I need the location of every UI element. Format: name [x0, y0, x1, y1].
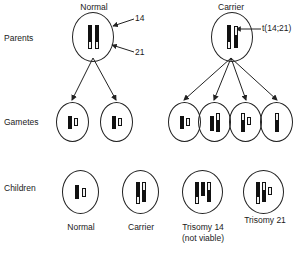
chromosome-translocation-14-21	[207, 182, 211, 202]
chromosome-group	[261, 103, 292, 141]
chromosome-group	[199, 103, 230, 141]
chromosome-14	[95, 25, 99, 41]
parent-cell-normal[interactable]	[72, 12, 114, 62]
chromosome-translocation-14-21	[234, 26, 238, 48]
chromosome-translocation-14-21	[262, 182, 266, 202]
translocation-black-segment	[143, 190, 145, 201]
child-caption-line2: (not viable)	[172, 233, 234, 244]
chromosome-21	[118, 118, 122, 126]
chromosome-14	[112, 116, 116, 129]
chromosome-translocation-14-21	[142, 182, 146, 202]
row-label-gametes: Gametes	[4, 117, 39, 127]
chromosome-group	[123, 171, 158, 213]
callout-label-chr21: 21	[135, 47, 144, 57]
child-caption-trisomy-14: Trisomy 14 (not viable)	[172, 222, 234, 243]
callout-label-chr14: 14	[135, 13, 144, 23]
translocation-black-segment	[235, 35, 237, 47]
chromosome-14	[75, 185, 79, 199]
chromosome-group	[63, 171, 98, 213]
chromosome-21	[136, 196, 140, 204]
chromosome-slot	[93, 13, 100, 61]
row-label-children: Children	[4, 183, 36, 193]
chromosome-translocation-14-21	[275, 113, 279, 132]
column-header-carrier-parent: Carrier	[205, 2, 257, 12]
chromosome-slot	[267, 171, 273, 213]
chromosome-group	[212, 13, 252, 61]
gamete-cell-carrier-2[interactable]	[198, 102, 231, 142]
chromosome-14	[136, 182, 140, 196]
chromosome-21	[195, 196, 199, 204]
chromosome-group	[244, 171, 283, 213]
row-label-parents: Parents	[4, 33, 33, 43]
gamete-cell-normal-2[interactable]	[100, 102, 133, 142]
chromosome-slot	[225, 13, 232, 61]
chromosome-21	[227, 41, 231, 49]
chromosome-14	[227, 25, 231, 41]
child-caption-line1: Carrier	[112, 222, 170, 233]
translocation-black-segment	[208, 190, 210, 201]
column-header-normal-parent: Normal	[68, 2, 120, 12]
chromosome-14	[88, 25, 92, 41]
chromosome-group	[73, 13, 113, 61]
translocation-black-segment	[263, 190, 265, 201]
gamete-cell-carrier-1[interactable]	[168, 102, 201, 142]
chromosome-group	[57, 103, 88, 141]
child-cell-trisomy-14[interactable]	[182, 170, 223, 214]
chromosome-21	[82, 188, 86, 197]
chromosome-group	[230, 103, 261, 141]
chromosome-slot	[206, 171, 212, 213]
child-cell-carrier[interactable]	[122, 170, 159, 214]
chromosome-21	[256, 196, 260, 204]
chromosome-14	[256, 182, 260, 196]
callout-label-translocation: t(14;21)	[262, 23, 291, 33]
gamete-cell-carrier-3[interactable]	[229, 102, 262, 142]
chromosome-21	[88, 41, 92, 49]
chromosome-translocation-14-21	[241, 113, 245, 132]
chromosome-slot	[141, 171, 147, 213]
chromosome-group	[183, 171, 222, 213]
child-cell-trisomy-21[interactable]	[243, 170, 284, 214]
chromosome-21	[95, 41, 99, 49]
chromosome-14	[210, 116, 214, 131]
chromosome-translocation-14-21	[216, 113, 220, 132]
chromosome-21	[247, 117, 251, 125]
chromosome-group	[101, 103, 132, 141]
parent-cell-carrier[interactable]	[211, 12, 253, 62]
translocation-black-segment	[217, 120, 219, 131]
gamete-cell-carrier-4[interactable]	[260, 102, 293, 142]
chromosome-21	[268, 187, 272, 195]
chromosome-14	[68, 116, 72, 129]
child-caption-line1: Normal	[52, 222, 110, 233]
translocation-black-segment	[242, 120, 244, 131]
chromosome-14	[180, 116, 184, 129]
chromosome-group	[169, 103, 200, 141]
translocation-black-segment	[276, 120, 278, 131]
gamete-cell-normal-1[interactable]	[56, 102, 89, 142]
chromosome-14	[195, 182, 199, 196]
child-caption-normal: Normal	[52, 222, 110, 233]
child-caption-carrier: Carrier	[112, 222, 170, 233]
child-cell-normal[interactable]	[62, 170, 99, 214]
chromosome-slot	[86, 13, 93, 61]
chromosome-21	[186, 118, 190, 126]
chromosome-21	[74, 118, 78, 126]
chromosome-slot	[232, 13, 239, 61]
chromosome-14	[201, 182, 205, 196]
child-caption-trisomy-21: Trisomy 21	[234, 215, 296, 226]
child-caption-line1: Trisomy 21	[234, 215, 296, 226]
child-caption-line1: Trisomy 14	[172, 222, 234, 233]
translocation-diagram: Parents Gametes Children Normal Carrier …	[0, 0, 299, 260]
